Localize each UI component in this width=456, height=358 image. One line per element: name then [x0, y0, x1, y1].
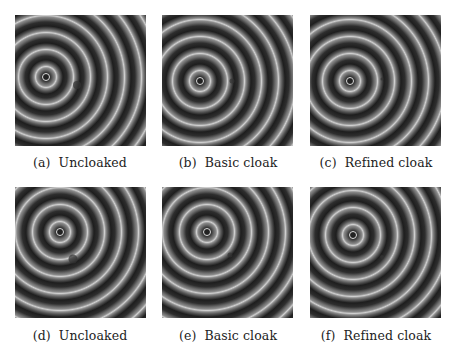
wave-source-icon — [346, 77, 354, 85]
wave-rings — [15, 15, 146, 146]
wave-rings — [310, 15, 441, 146]
caption-label: Uncloaked — [59, 328, 127, 343]
caption-d: (d)Uncloaked — [0, 328, 160, 343]
caption-tag: (f) — [321, 328, 336, 343]
wave-rings — [15, 187, 146, 318]
caption-tag: (a) — [33, 155, 51, 170]
caption-tag: (c) — [320, 155, 337, 170]
wave-source-icon — [196, 77, 204, 85]
wave-source-icon — [56, 228, 64, 236]
caption-label: Refined cloak — [343, 328, 431, 343]
caption-label: Basic cloak — [204, 328, 277, 343]
cloak-region — [73, 81, 81, 89]
wave-rings — [310, 187, 441, 318]
wave-panel-e — [162, 187, 293, 318]
cloak-region — [228, 253, 233, 258]
wave-source-icon — [203, 228, 211, 236]
wave-source-icon — [349, 231, 357, 239]
caption-tag: (e) — [179, 328, 196, 343]
cloak-region — [69, 255, 78, 264]
wave-panel-b — [162, 15, 293, 146]
caption-c: (c)Refined cloak — [296, 155, 456, 170]
caption-label: Refined cloak — [345, 155, 433, 170]
caption-f: (f)Refined cloak — [296, 328, 456, 343]
wave-source-icon — [42, 73, 50, 81]
wave-panel-d — [15, 187, 146, 318]
cloak-region — [380, 255, 384, 259]
caption-label: Basic cloak — [205, 155, 278, 170]
caption-a: (a)Uncloaked — [0, 155, 160, 170]
cloak-region — [381, 78, 384, 81]
caption-e: (e)Basic cloak — [148, 328, 308, 343]
cloak-region — [230, 79, 235, 84]
caption-b: (b)Basic cloak — [148, 155, 308, 170]
caption-tag: (d) — [33, 328, 51, 343]
wave-panel-c — [310, 15, 441, 146]
wave-panel-f — [310, 187, 441, 318]
wave-panel-a — [15, 15, 146, 146]
caption-label: Uncloaked — [59, 155, 127, 170]
wave-rings — [162, 15, 293, 146]
caption-tag: (b) — [179, 155, 197, 170]
